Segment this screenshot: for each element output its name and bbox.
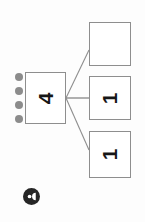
handle-dot	[15, 101, 23, 109]
handle-dot	[15, 73, 23, 81]
connector-to-child-0	[66, 50, 89, 98]
child-node-one-b[interactable]: 1	[89, 131, 131, 178]
root-node-label: 4	[35, 92, 56, 104]
root-node[interactable]: 4	[25, 72, 66, 124]
user-icon	[26, 191, 37, 202]
handle-dot	[15, 87, 23, 95]
drag-handle[interactable]	[14, 73, 23, 123]
child-node-one-a-label: 1	[100, 92, 121, 104]
handle-dot	[15, 115, 23, 123]
child-node-one-a[interactable]: 1	[89, 76, 131, 120]
child-node-one-b-label: 1	[100, 149, 121, 161]
child-node-empty[interactable]	[89, 22, 131, 66]
diagram-canvas: 4 1 1	[0, 0, 145, 222]
connector-to-child-2	[66, 98, 89, 150]
avatar-icon[interactable]	[23, 188, 40, 205]
